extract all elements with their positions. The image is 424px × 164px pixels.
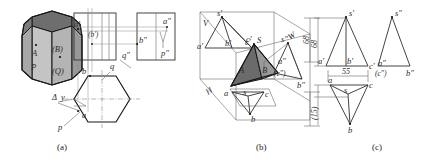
a-prime-label: a' <box>197 41 203 51</box>
face-a-label: A <box>238 65 245 75</box>
c-double-prime-hidden-label: (c") <box>274 69 286 78</box>
prism-front-right-face <box>52 26 72 85</box>
s-prime-label: s' <box>217 8 222 18</box>
b-top-label: b <box>82 66 86 76</box>
apex-s-label: S <box>257 35 262 45</box>
p-double-prime-label: p" <box>160 48 169 58</box>
plane-h-label: H <box>203 84 215 97</box>
caption-a: (a) <box>57 142 67 152</box>
part-b-group: V W H s' a' b' c' S A B c' <box>192 0 317 164</box>
a-double-prime-label: a" <box>378 58 386 68</box>
part-b-top-projection: s a b c <box>224 87 276 124</box>
q-double-prime-label: q" <box>122 50 130 60</box>
part-b-front-projection: s' a' b' c' <box>197 8 252 51</box>
caption-c: (c) <box>372 142 382 152</box>
part-c-front-dimensions: 68 55 <box>310 18 368 82</box>
dim-68-text: 68 <box>310 40 319 48</box>
plane-p-label: P <box>30 62 36 72</box>
vertex-c-prime-label: c' <box>246 34 252 44</box>
s-double-prime-label: s" <box>395 8 402 18</box>
s-double-prime-label: s" <box>281 34 288 44</box>
dim-15-text: (15) <box>310 106 319 120</box>
face-b-label: B <box>262 65 267 75</box>
q-top-label: q <box>110 61 115 71</box>
a-top-label: a <box>224 88 228 98</box>
top-view-edge-sc <box>348 85 368 94</box>
point-a-marker <box>35 44 37 46</box>
a-double-prime-label: a" <box>278 56 286 66</box>
p-top-leader <box>64 112 80 126</box>
delta-y-label: y <box>60 92 65 102</box>
point-b-hidden-label: (B) <box>52 44 63 54</box>
point-b-marker <box>59 56 61 58</box>
a-double-prime-label: a" <box>163 16 171 26</box>
a-prime-label: a' <box>74 19 80 29</box>
apex-s-marker <box>253 43 255 45</box>
b-prime-hidden-label: (b') <box>88 30 99 39</box>
b-prime-label: b' <box>225 38 231 48</box>
c-double-prime-hidden-label: (c") <box>375 69 387 78</box>
part-c-group: s' a' b' c' 68 55 s" a" (c") b" <box>306 0 424 164</box>
q-double-prime-leader <box>120 60 131 68</box>
b-top-label: b <box>251 114 255 124</box>
s-double-prime-marker <box>391 16 393 18</box>
a-top-label: a <box>328 75 332 85</box>
b-top-marker <box>89 75 91 77</box>
a-prime-label: a' <box>318 56 324 66</box>
b-double-prime-label: b" <box>139 35 147 45</box>
caption-b: (b) <box>256 142 267 152</box>
b-prime-label: b' <box>347 56 353 66</box>
c-top-label: c <box>369 80 373 90</box>
part-c-top-view: a s c b (15) <box>310 75 373 135</box>
dim-55-text: 55 <box>342 67 350 76</box>
figure-canvas: A (B) P (Q) a' (b') b" a" p" <box>0 0 424 164</box>
part-a-side-view: b" a" p" q" <box>120 13 175 68</box>
pq-trace-v-line <box>160 28 167 42</box>
part-a-group: A (B) P (Q) a' (b') b" a" p" <box>0 0 212 164</box>
tetrahedron-solid: S A B c' <box>231 34 278 86</box>
delta-symbol-label: Δ <box>51 92 57 102</box>
part-c-front-view: s' a' b' c' <box>318 8 375 71</box>
p-top-label: p <box>57 122 62 132</box>
top-proj-triangle <box>232 92 264 114</box>
s-prime-label: s' <box>349 8 354 18</box>
part-c-side-view: s" a" (c") b" <box>375 8 414 78</box>
b-top-label: b <box>348 125 352 135</box>
plane-v-label: V <box>203 18 210 28</box>
c-prime-label: c' <box>369 61 375 71</box>
plane-q-hidden-label: (Q) <box>52 66 64 76</box>
c-top-label: c <box>265 89 269 99</box>
hex-prism-pictorial: A (B) P (Q) <box>22 11 82 85</box>
b-double-prime-label: b" <box>406 68 414 78</box>
point-a-label: A <box>31 48 38 58</box>
top-view-edge-sb <box>348 94 350 124</box>
a-top-label: a <box>82 110 86 120</box>
